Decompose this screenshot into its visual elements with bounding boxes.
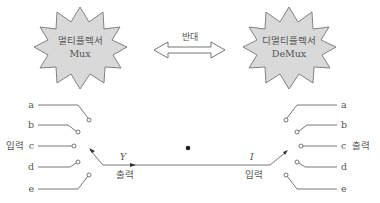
- relation-label: 반대: [182, 32, 198, 42]
- demux-output-c: c: [341, 140, 346, 151]
- mux-input-a: a: [28, 99, 34, 110]
- mux-input-b: b: [28, 119, 34, 130]
- demux-output-label: 출력: [352, 140, 370, 151]
- demux-input-label: 입력: [245, 169, 263, 180]
- mux-title-ko: 멀티플렉서: [58, 35, 103, 46]
- switch-arrow-icon: [89, 148, 95, 153]
- dot-marker: [186, 146, 191, 151]
- mux-output-symbol: Y: [120, 151, 128, 162]
- mux-switch: [38, 105, 270, 189]
- demux-input-symbol: I: [249, 151, 254, 162]
- mux-title-en: Mux: [69, 48, 91, 59]
- demux-switch: [270, 105, 337, 189]
- demux-output-b: b: [341, 119, 347, 130]
- mux-input-d: d: [28, 161, 34, 172]
- demux-title-en: DeMux: [272, 48, 307, 59]
- demux-title-ko: 디멀티플렉서: [262, 35, 316, 46]
- mux-input-label: 입력: [6, 140, 24, 151]
- mux-demux-diagram: 멀티플렉서 Mux 디멀티플렉서 DeMux 반대 a b c d e 입력 Y: [0, 0, 380, 203]
- demux-starburst: 디멀티플렉서 DeMux: [243, 7, 336, 89]
- mux-starburst: 멀티플렉서 Mux: [34, 7, 127, 89]
- mux-input-e: e: [28, 183, 34, 194]
- demux-output-a: a: [341, 99, 347, 110]
- double-arrow-icon: 반대: [154, 32, 225, 58]
- mux-output-label: 출력: [116, 169, 134, 180]
- demux-output-e: e: [341, 183, 347, 194]
- arrow-icon: [130, 163, 136, 167]
- mux-input-c: c: [29, 140, 34, 151]
- demux-output-d: d: [341, 161, 347, 172]
